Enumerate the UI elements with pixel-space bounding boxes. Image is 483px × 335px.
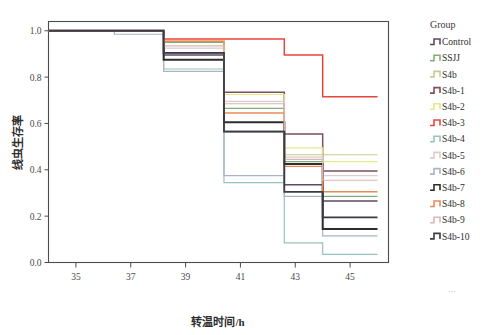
x-tick-label: 43 [291, 272, 301, 282]
survival-curve-chart: 0.00.20.40.60.81.0 353739414345 转温时间/h 线… [0, 0, 483, 335]
plot-svg: 0.00.20.40.60.81.0 353739414345 转温时间/h 线… [0, 0, 483, 335]
x-tick-label: 35 [71, 272, 81, 282]
legend-item-label: S4b-3 [442, 118, 465, 128]
y-tick-label: 1.0 [30, 26, 42, 36]
y-tick-label: 0.2 [30, 212, 42, 222]
y-tick-label: 0.4 [30, 165, 42, 175]
chart-background [0, 0, 483, 335]
y-axis-title: 线虫生存率 [11, 115, 24, 170]
legend-item-label: S4b-9 [442, 215, 465, 225]
legend-item-label: S4b-10 [442, 232, 470, 242]
y-tick-label: 0.6 [30, 119, 42, 129]
legend-item-label: S4b-4 [442, 134, 465, 144]
legend-item-label: S4b-7 [442, 183, 465, 193]
legend-item-label: S4b-1 [442, 86, 465, 96]
y-tick-label: 0.0 [30, 258, 42, 268]
legend-item-label: S4b-5 [442, 151, 465, 161]
legend-item-label: Control [442, 37, 471, 47]
x-tick-label: 37 [126, 272, 136, 282]
legend-title: Group [430, 19, 456, 30]
footer-ellipsis: ... [448, 283, 456, 294]
legend-item-label: S4b-6 [442, 167, 465, 177]
legend-item-label: S4b-2 [442, 102, 465, 112]
legend-item-label: S4b [442, 70, 457, 80]
x-tick-label: 45 [345, 272, 355, 282]
legend-item-label: S4b-8 [442, 199, 465, 209]
legend-item-label: SSJJ [442, 53, 460, 63]
x-tick-label: 39 [181, 272, 191, 282]
x-tick-label: 41 [236, 272, 246, 282]
x-axis-title: 转温时间/h [191, 315, 244, 328]
y-tick-label: 0.8 [30, 73, 42, 83]
